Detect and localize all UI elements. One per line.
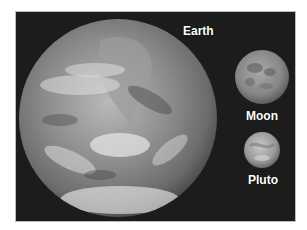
moon bbox=[235, 50, 289, 104]
earth-label: Earth bbox=[183, 24, 214, 38]
earth bbox=[19, 19, 217, 217]
pluto-label: Pluto bbox=[248, 173, 278, 187]
moon-label: Moon bbox=[246, 109, 278, 123]
pluto bbox=[244, 132, 280, 168]
